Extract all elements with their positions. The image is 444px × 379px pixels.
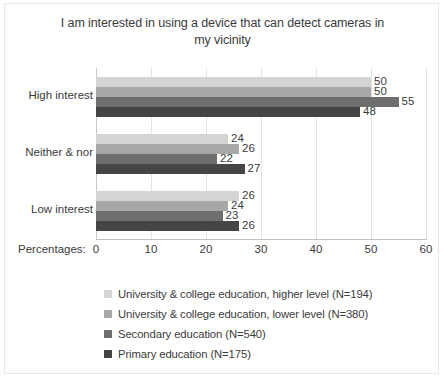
bar[interactable] [96, 144, 239, 154]
bar[interactable] [96, 107, 360, 117]
bar-row: 27 [96, 164, 426, 174]
bar[interactable] [96, 211, 223, 221]
category-label: Low interest [7, 203, 93, 215]
legend-swatch-icon [104, 310, 112, 318]
x-tick-label-0: 0 [81, 243, 111, 255]
legend-swatch-icon [104, 290, 112, 298]
x-axis-tick-row: Percentages: 0102030405060 [5, 243, 440, 261]
chart-title-line-1: I am interested in using a device that c… [35, 15, 410, 32]
legend-item[interactable]: Primary education (N=175) [104, 344, 424, 364]
bar[interactable] [96, 87, 371, 97]
legend-item[interactable]: University & college education, higher l… [104, 284, 424, 304]
x-tick-label-10: 10 [136, 243, 166, 255]
bar-group: 50505548 [96, 77, 426, 117]
bar-value-label: 26 [242, 219, 255, 231]
legend-item[interactable]: Secondary education (N=540) [104, 324, 424, 344]
bar-row: 26 [96, 144, 426, 154]
bar[interactable] [96, 191, 239, 201]
bar-value-label: 50 [374, 85, 387, 97]
legend-label: University & college education, higher l… [118, 288, 372, 300]
x-axis-title: Percentages: [18, 243, 86, 255]
chart-legend: University & college education, higher l… [104, 284, 424, 364]
chart-title: I am interested in using a device that c… [35, 15, 410, 49]
bar[interactable] [96, 164, 245, 174]
x-axis-line [96, 239, 427, 240]
legend-label: University & college education, lower le… [118, 308, 368, 320]
gridline-60 [426, 68, 427, 239]
bar[interactable] [96, 77, 371, 87]
bar-row: 55 [96, 97, 426, 107]
plot-area: 505055482426222726242326 [96, 68, 426, 239]
bar-value-label: 55 [402, 95, 415, 107]
x-tick-label-30: 30 [246, 243, 276, 255]
bar-value-label: 48 [363, 105, 376, 117]
legend-label: Secondary education (N=540) [118, 328, 266, 340]
legend-label: Primary education (N=175) [118, 348, 251, 360]
bar-row: 26 [96, 191, 426, 201]
bar-value-label: 26 [242, 142, 255, 154]
bar[interactable] [96, 221, 239, 231]
x-tick-label-20: 20 [191, 243, 221, 255]
legend-swatch-icon [104, 350, 112, 358]
x-tick-label-40: 40 [301, 243, 331, 255]
category-label: High interest [7, 89, 93, 101]
bar-group: 26242326 [96, 191, 426, 231]
bar-value-label: 27 [248, 162, 261, 174]
category-axis-labels: High interestNeither & norLow interest [5, 68, 93, 239]
chart-title-line-2: my vicinity [35, 32, 410, 49]
bar-row: 48 [96, 107, 426, 117]
bar[interactable] [96, 97, 399, 107]
legend-item[interactable]: University & college education, lower le… [104, 304, 424, 324]
bar[interactable] [96, 154, 217, 164]
x-tick-label-50: 50 [356, 243, 386, 255]
bar-row: 26 [96, 221, 426, 231]
x-tick-label-60: 60 [411, 243, 441, 255]
bar-value-label: 23 [226, 209, 239, 221]
bar[interactable] [96, 201, 228, 211]
bar-row: 24 [96, 134, 426, 144]
bar-group: 24262227 [96, 134, 426, 174]
bar-row: 50 [96, 87, 426, 97]
bar-value-label: 22 [220, 152, 233, 164]
bar[interactable] [96, 134, 228, 144]
category-label: Neither & nor [7, 146, 93, 158]
bar-row: 23 [96, 211, 426, 221]
legend-swatch-icon [104, 330, 112, 338]
bar-row: 24 [96, 201, 426, 211]
bar-row: 22 [96, 154, 426, 164]
chart-container: I am interested in using a device that c… [4, 3, 439, 374]
